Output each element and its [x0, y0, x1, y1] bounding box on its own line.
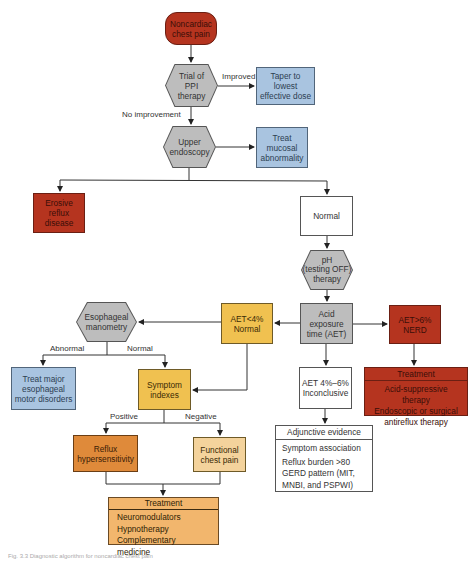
connector-lines [0, 0, 475, 563]
node-text: disease [45, 218, 74, 228]
node-text: exposure [309, 319, 343, 329]
node-text: Upper [178, 137, 201, 147]
node-aet-nerd: AET>6% NERD [389, 305, 441, 344]
node-text: chest pain [172, 29, 210, 39]
node-functional-chest-pain: Functional chest pain [193, 437, 246, 472]
node-text: manometry [86, 322, 128, 332]
node-normal: Normal [300, 196, 353, 236]
node-text: time (AET) [307, 329, 347, 339]
node-aet-inconclusive: AET 4%–6% Inconclusive [299, 367, 352, 409]
edge-label-positive: Positive [110, 412, 138, 421]
figure-caption: Fig. 3.3 Diagnostic algorithm for noncar… [8, 553, 153, 559]
node-noncardiac-chest-pain: Noncardiac chest pain [165, 12, 217, 45]
node-acid-exposure-time: Acid exposure time (AET) [300, 303, 353, 344]
node-esophageal-manometry: Esophageal manometry [76, 302, 137, 342]
panel-treatment-functional: Treatment Neuromodulators Hypnotherapy C… [108, 497, 219, 545]
node-text: reflux [49, 208, 69, 218]
node-treat-motor-disorders: Treat major esophageal motor disorders [11, 367, 76, 410]
panel-adjunctive-evidence: Adjunctive evidence Symptom association … [275, 425, 373, 492]
node-erosive-reflux-disease: Erosive reflux disease [33, 193, 85, 233]
node-ph-testing: pH (testing OFF) therapy [301, 250, 353, 290]
node-text: AET<4% [231, 314, 264, 324]
edge-label-abnormal: Abnormal [50, 344, 84, 353]
node-text: Symptom [147, 380, 182, 390]
node-symptom-indexes: Symptom indexes [138, 369, 191, 410]
panel-item: antireflux therapy [371, 417, 461, 428]
node-text: effective dose [260, 91, 311, 101]
node-text: lowest [274, 81, 298, 91]
node-text: motor disorders [15, 394, 73, 404]
panel-item: Reflux burden >80 [282, 457, 366, 469]
node-text: AET>6% [399, 315, 432, 325]
panel-title: Treatment [109, 498, 218, 510]
panel-item: GERD pattern (MIT, [282, 468, 366, 480]
node-upper-endoscopy: Upper endoscopy [163, 126, 216, 168]
node-text: therapy [178, 91, 206, 101]
node-text: Normal [313, 211, 340, 221]
edge-label-negative: Negative [185, 412, 217, 421]
node-taper-lowest-dose: Taper to lowest effective dose [256, 67, 315, 105]
panel-item: Symptom association [282, 443, 366, 455]
node-text: Reflux [94, 444, 118, 454]
node-text: chest pain [201, 455, 239, 465]
node-text: Treat [272, 133, 291, 143]
node-text: AET 4%–6% [302, 378, 349, 388]
node-text: NERD [403, 325, 427, 335]
node-text: Normal [234, 324, 261, 334]
node-text: Trial of [179, 71, 204, 81]
node-text: esophageal [22, 384, 65, 394]
node-treat-mucosal-abnormality: Treat mucosal abnormality [256, 127, 308, 168]
node-text: Treat major [22, 374, 64, 384]
node-text: abnormality [261, 153, 304, 163]
edge-label-no-improvement: No improvement [122, 110, 181, 119]
node-text: Inconclusive [303, 388, 349, 398]
edge-label-improved: Improved [222, 72, 255, 81]
panel-treatment-nerd: Treatment Acid-suppressive therapy Endos… [364, 367, 468, 416]
panel-item: Hypnotherapy [117, 524, 210, 536]
node-text: Functional [200, 445, 238, 455]
node-text: therapy [313, 275, 341, 285]
node-text: Taper to [271, 71, 301, 81]
panel-title: Adjunctive evidence [276, 426, 372, 440]
node-trial-of-ppi-therapy: Trial of PPI therapy [165, 64, 218, 107]
panel-item: MNBI, and PSPWI) [282, 480, 366, 492]
node-text: Erosive [45, 198, 73, 208]
node-text: Noncardiac [170, 19, 212, 29]
node-text: Acid [318, 309, 334, 319]
panel-item: Acid-suppressive therapy [371, 384, 461, 406]
node-text: PPI [185, 81, 198, 91]
node-text: mucosal [267, 143, 298, 153]
node-text: endoscopy [169, 147, 209, 157]
node-text: Esophageal [85, 312, 129, 322]
node-text: hypersensitivity [77, 454, 134, 464]
panel-item: Neuromodulators [117, 512, 210, 524]
node-aet-normal: AET<4% Normal [221, 303, 273, 344]
panel-title: Treatment [365, 368, 467, 381]
node-reflux-hypersensitivity: Reflux hypersensitivity [73, 435, 138, 472]
panel-item: Endoscopic or surgical [371, 406, 461, 417]
node-text: indexes [150, 390, 179, 400]
edge-label-normal: Normal [127, 344, 153, 353]
